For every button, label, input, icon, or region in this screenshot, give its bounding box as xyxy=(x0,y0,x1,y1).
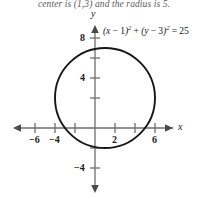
y-axis-down-arrow-icon xyxy=(91,185,99,193)
equation-annotation: (x − 1)2 + (y − 3)2 = 25 xyxy=(103,24,189,36)
y-axis-up-arrow-icon xyxy=(91,25,99,33)
x-axis-label: x xyxy=(178,121,182,132)
x-tick-label-6: 6 xyxy=(152,134,157,145)
x-tick-label--6: −6 xyxy=(29,134,40,145)
x-tick-label--4: −4 xyxy=(49,134,60,145)
y-tick-label-8: 8 xyxy=(80,32,85,43)
figure-canvas: center is (1,3) and the radius is 5. xyxy=(0,0,208,199)
equation-plus: + xyxy=(131,25,141,36)
x-tick-label-2: 2 xyxy=(112,134,117,145)
x-axis-left-arrow-icon xyxy=(13,124,21,132)
y-axis-label: y xyxy=(91,8,95,19)
equation-equals: = xyxy=(169,25,179,36)
equation-radius-squared: 25 xyxy=(179,25,188,36)
y-tick-label--4: −4 xyxy=(74,162,85,173)
equation-y-minus: − xyxy=(148,25,158,36)
x-axis-right-arrow-icon xyxy=(165,124,173,132)
equation-x-minus: − xyxy=(110,25,120,36)
circle-graph xyxy=(55,48,155,148)
y-tick-label-4: 4 xyxy=(80,72,85,83)
